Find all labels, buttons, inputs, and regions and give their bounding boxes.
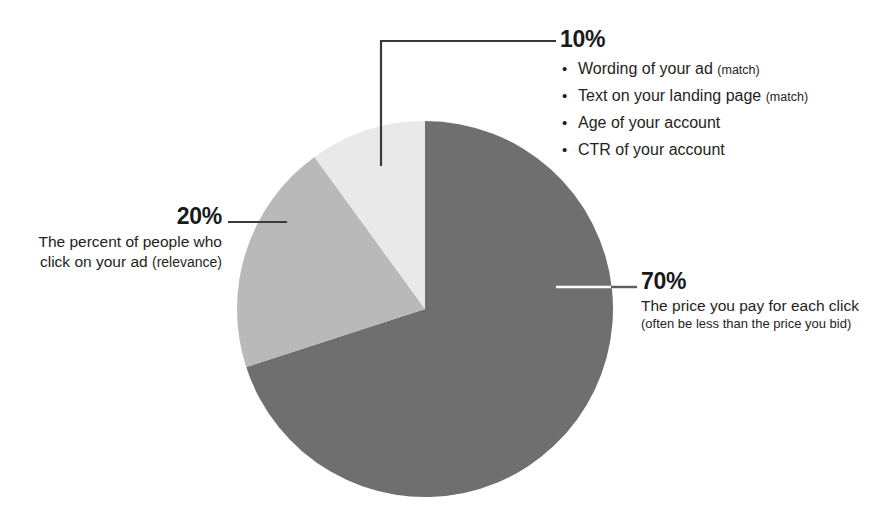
bullet-note: (match) [717,63,759,77]
callout-70-line1: The price you pay for each click [641,296,879,315]
bullet-text: Wording of your ad [578,60,717,77]
callout-20-line1: The percent of people who [0,232,222,252]
callout-10-percent: 10% [560,26,875,52]
callout-70: 70% The price you pay for each click (of… [641,268,879,333]
callout-70-percent: 70% [641,268,879,294]
callout-20: 20% The percent of people who click on y… [0,203,222,272]
callout-20-line2-text: click on your ad [40,253,152,270]
bullet-text: CTR of your account [578,141,725,158]
list-item: Text on your landing page (match) [560,83,875,110]
list-item: CTR of your account [560,137,875,164]
callout-20-line2-note: (relevance) [152,254,222,270]
pie-chart-figure: 10% Wording of your ad (match) Text on y… [0,0,881,521]
bullet-note: (match) [766,90,808,104]
callout-20-line2: click on your ad (relevance) [0,252,222,272]
callout-70-line2: (often be less than the price you bid) [641,315,879,333]
list-item: Wording of your ad (match) [560,56,875,83]
callout-20-percent: 20% [0,203,222,229]
bullet-text: Age of your account [578,114,720,131]
callout-10: 10% Wording of your ad (match) Text on y… [560,26,875,164]
callout-10-bullet-list: Wording of your ad (match) Text on your … [560,56,875,164]
bullet-text: Text on your landing page [578,87,766,104]
list-item: Age of your account [560,110,875,137]
